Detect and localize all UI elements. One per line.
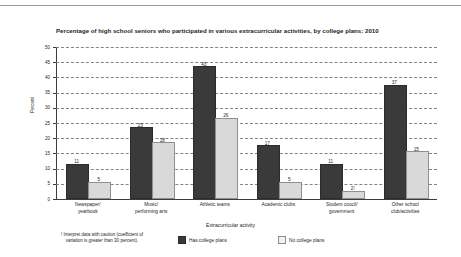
legend-item[interactable]: Has college plans (178, 236, 227, 244)
bar[interactable] (130, 127, 153, 199)
bar-value-label: 43 (193, 62, 214, 67)
bar-value-label: 15 (406, 147, 427, 152)
y-axis-tick-mark (53, 199, 56, 200)
y-axis-tick-label: 10 (32, 166, 50, 171)
bar-value-label: 37 (384, 80, 405, 85)
y-axis-tick-label: 15 (32, 151, 50, 156)
chart-legend: Has college plansNo college plans (178, 236, 378, 248)
bar-group: 112! (310, 47, 374, 199)
bar-value-label: 18 (152, 138, 173, 143)
bar-group: 115 (56, 47, 120, 199)
x-axis-category-line: performing arts (114, 209, 190, 216)
y-axis-tick-label: 50 (32, 45, 50, 50)
legend-label: Has college plans (189, 238, 227, 243)
footnote-line: variation is greater than 30 percent). (32, 238, 172, 244)
bar[interactable] (342, 191, 365, 199)
y-axis-tick-label: 45 (32, 60, 50, 65)
bar[interactable] (384, 85, 407, 199)
y-axis-tick-label: 40 (32, 75, 50, 80)
y-axis-tick-mark (53, 184, 56, 185)
bar[interactable] (320, 164, 343, 199)
gridline (56, 199, 437, 200)
y-axis-tick-mark (53, 108, 56, 109)
y-axis-tick-label: 20 (32, 136, 50, 141)
bar[interactable] (66, 164, 89, 199)
bar-group: 175 (247, 47, 311, 199)
y-axis-tick-mark (53, 123, 56, 124)
y-axis-tick-mark (53, 47, 56, 48)
bar-value-label: 2! (342, 186, 363, 191)
x-axis-category-label: Other schoolclub/activities (368, 202, 444, 215)
y-axis-tick-label: 0 (32, 197, 50, 202)
bar[interactable] (279, 182, 302, 199)
y-axis-tick-mark (53, 93, 56, 94)
chart-footnote: ! Interpret data with caution (coefficie… (32, 232, 172, 244)
legend-swatch-icon (178, 236, 186, 244)
chart-title: Percentage of high school seniors who pa… (56, 26, 448, 35)
bar-value-label: 5 (279, 177, 300, 182)
y-axis-tick-mark (53, 62, 56, 63)
bar[interactable] (215, 118, 238, 199)
bar-chart: Percentage of high school seniors who pa… (0, 0, 461, 257)
bar[interactable] (193, 66, 216, 199)
x-axis-category-line: Other school (368, 202, 444, 209)
y-axis-tick-label: 30 (32, 105, 50, 110)
legend-label: No college plans (289, 238, 324, 243)
bar-value-label: 17 (257, 141, 278, 146)
y-axis-tick-mark (53, 153, 56, 154)
y-axis-tick-label: 35 (32, 90, 50, 95)
bar[interactable] (257, 145, 280, 199)
plot-area: 11523184326175112!3715 (56, 47, 437, 199)
y-axis-tick-mark (53, 77, 56, 78)
bar-value-label: 11 (66, 159, 87, 164)
bar-value-label: 23 (130, 123, 151, 128)
bar-group: 4326 (183, 47, 247, 199)
y-axis-tick-mark (53, 138, 56, 139)
bar-value-label: 5 (88, 177, 109, 182)
y-axis-tick-label: 5 (32, 181, 50, 186)
y-axis-tick-label: 25 (32, 121, 50, 126)
y-axis-tick-mark (53, 169, 56, 170)
bar-group: 3715 (374, 47, 438, 199)
x-axis-category-line: club/activities (368, 209, 444, 216)
bar[interactable] (406, 151, 429, 199)
legend-item[interactable]: No college plans (278, 236, 324, 244)
legend-swatch-icon (278, 236, 286, 244)
bar-value-label: 26 (215, 113, 236, 118)
bar[interactable] (88, 182, 111, 199)
x-axis-title: Extracurricular activity (0, 222, 461, 228)
bar[interactable] (152, 142, 175, 199)
bar-group: 2318 (120, 47, 184, 199)
bar-value-label: 11 (320, 159, 341, 164)
